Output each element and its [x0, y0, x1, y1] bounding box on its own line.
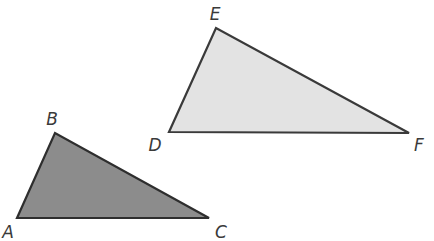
- vertex-label-a: A: [1, 222, 14, 241]
- triangles-diagram: A B C D E F: [0, 0, 434, 241]
- vertex-label-c: C: [215, 222, 227, 241]
- vertex-label-f: F: [414, 135, 424, 155]
- vertex-label-b: B: [46, 109, 58, 129]
- triangle-def: [169, 28, 409, 133]
- vertex-label-d: D: [148, 135, 161, 155]
- triangle-abc: [17, 133, 209, 218]
- vertex-label-e: E: [210, 4, 221, 24]
